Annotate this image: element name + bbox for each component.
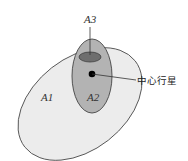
orbit-region-diagram: A3 A1 A2 中心行星 <box>0 0 188 161</box>
label-a1: A1 <box>40 91 53 103</box>
label-a2: A2 <box>86 91 100 103</box>
label-center-planet: 中心行星 <box>137 75 177 86</box>
label-a3: A3 <box>83 13 97 25</box>
